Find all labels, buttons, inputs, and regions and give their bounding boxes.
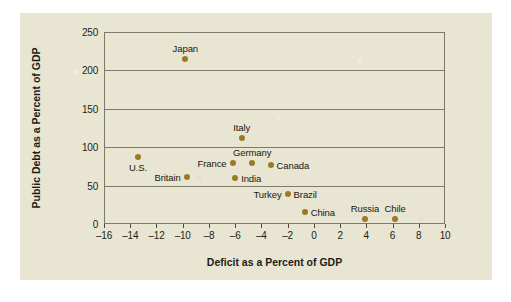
data-point-label: Turkey <box>254 189 282 200</box>
x-tick-label: 10 <box>440 230 451 241</box>
x-tick-label: 2 <box>337 230 342 241</box>
data-point-label: China <box>311 206 335 217</box>
x-tick-label: –14 <box>122 230 138 241</box>
x-tick-mark <box>183 224 184 228</box>
gridline <box>104 70 445 71</box>
data-point-label: India <box>241 172 261 183</box>
x-tick-label: 6 <box>390 230 395 241</box>
data-point <box>392 216 398 222</box>
x-tick-mark <box>445 224 446 228</box>
x-tick-mark <box>130 224 131 228</box>
data-point <box>230 160 236 166</box>
gridline <box>104 186 445 187</box>
data-point <box>184 174 190 180</box>
data-point <box>285 191 291 197</box>
x-tick-mark <box>261 224 262 228</box>
x-tick-label: 8 <box>416 230 421 241</box>
y-tick-label: 250 <box>58 27 98 38</box>
x-tick-mark <box>235 224 236 228</box>
x-axis-title: Deficit as a Percent of GDP <box>104 256 445 268</box>
x-tick-mark <box>393 224 394 228</box>
gridline <box>104 109 445 110</box>
x-tick-mark <box>314 224 315 228</box>
data-point-label: Germany <box>233 147 271 158</box>
data-point <box>249 160 255 166</box>
y-tick-label: 200 <box>58 65 98 76</box>
data-point-label: Russia <box>351 203 379 214</box>
data-point-label: Italy <box>233 122 250 133</box>
data-point <box>362 216 368 222</box>
figure-root: 050100150200250 –16–14–12–10–8–6–4–20246… <box>0 0 511 302</box>
x-tick-label: –16 <box>96 230 112 241</box>
data-point <box>135 154 141 160</box>
data-point <box>232 175 238 181</box>
data-point-label: Japan <box>173 43 198 54</box>
data-point-label: Chile <box>385 203 406 214</box>
data-point-label: France <box>198 158 227 169</box>
x-tick-label: 4 <box>364 230 369 241</box>
data-point-label: Brazil <box>294 189 317 200</box>
data-point <box>182 56 188 62</box>
x-tick-label: 0 <box>311 230 316 241</box>
x-tick-mark <box>340 224 341 228</box>
x-tick-label: –8 <box>204 230 215 241</box>
x-tick-mark <box>366 224 367 228</box>
y-tick-label: 50 <box>58 180 98 191</box>
data-point-label: Canada <box>277 159 310 170</box>
x-tick-mark <box>419 224 420 228</box>
y-axis-title: Public Debt as a Percent of GDP <box>30 47 42 208</box>
data-point <box>239 135 245 141</box>
data-point <box>302 209 308 215</box>
x-tick-label: –6 <box>230 230 241 241</box>
data-point-label: U.S. <box>129 162 147 173</box>
x-tick-label: –2 <box>282 230 293 241</box>
x-tick-mark <box>104 224 105 228</box>
data-point <box>268 162 274 168</box>
x-tick-mark <box>209 224 210 228</box>
data-point-label: Britain <box>154 172 180 183</box>
x-tick-label: –10 <box>175 230 191 241</box>
y-tick-label: 150 <box>58 103 98 114</box>
x-tick-label: –12 <box>148 230 164 241</box>
x-tick-mark <box>156 224 157 228</box>
x-tick-mark <box>288 224 289 228</box>
y-tick-label: 0 <box>58 219 98 230</box>
x-tick-label: –4 <box>256 230 267 241</box>
y-tick-label: 100 <box>58 142 98 153</box>
gridline <box>104 147 445 148</box>
